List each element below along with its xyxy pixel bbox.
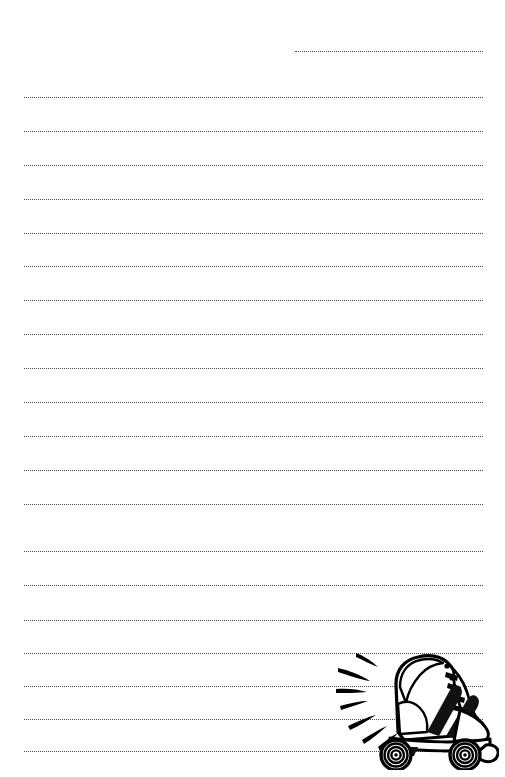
wheel-front-ring-1 xyxy=(385,744,408,767)
lace-3 xyxy=(450,694,465,703)
sole-plate xyxy=(390,738,490,751)
rule-line-partial xyxy=(295,51,483,52)
rule-line xyxy=(24,620,483,621)
rule-line xyxy=(24,719,483,720)
speed-line-4 xyxy=(340,701,368,710)
writing-paper-page xyxy=(0,0,505,777)
rule-line xyxy=(24,653,483,654)
lace-1 xyxy=(445,672,458,681)
stripe-2 xyxy=(446,695,479,739)
rule-line xyxy=(24,585,483,586)
wheel-front-tire xyxy=(381,740,411,770)
rule-line xyxy=(24,97,483,98)
speed-line-5 xyxy=(348,715,376,730)
eyelet-2 xyxy=(449,675,454,680)
wheel-front-hub xyxy=(394,753,398,757)
wheel-rear-hub xyxy=(463,753,467,757)
rule-line xyxy=(24,504,483,505)
eyelet-3 xyxy=(453,687,458,692)
wheel-rear-tire xyxy=(450,740,480,770)
boot-collar xyxy=(400,659,443,703)
skate-body-group xyxy=(381,656,498,770)
rule-line xyxy=(24,751,483,752)
rule-line xyxy=(24,266,483,267)
speed-lines-group xyxy=(336,653,398,751)
toe-stop xyxy=(479,745,498,762)
rule-line xyxy=(24,300,483,301)
wheel-rear-ring-1 xyxy=(454,744,477,767)
boot-heel-panel xyxy=(398,702,427,734)
wheel-rear-ring-2 xyxy=(457,747,473,763)
rule-line xyxy=(24,131,483,132)
rule-line xyxy=(24,233,483,234)
lace-eyelets-group xyxy=(444,663,458,692)
speed-line-6 xyxy=(362,726,387,744)
laces-group xyxy=(445,672,469,714)
stripe-1 xyxy=(427,685,462,736)
lace-4 xyxy=(453,705,469,714)
boot-tongue xyxy=(454,670,478,723)
eyelet-1 xyxy=(444,663,449,668)
wheel-front-ring-2 xyxy=(388,747,404,763)
speed-line-3 xyxy=(336,689,367,693)
wheel-front-group xyxy=(381,740,411,770)
rule-line xyxy=(24,686,483,687)
rule-line xyxy=(24,402,483,403)
toe-cap xyxy=(454,710,488,741)
boot-upper xyxy=(396,656,468,740)
rule-line xyxy=(24,334,483,335)
rule-line xyxy=(24,368,483,369)
rule-line xyxy=(24,199,483,200)
speed-line-7 xyxy=(378,733,398,751)
rule-line xyxy=(24,551,483,552)
rule-line xyxy=(24,470,483,471)
wheel-rear-group xyxy=(450,740,480,770)
rule-line xyxy=(24,436,483,437)
lace-2 xyxy=(447,683,461,692)
speed-line-2 xyxy=(338,668,370,681)
rule-line xyxy=(24,165,483,166)
speed-line-1 xyxy=(356,653,378,667)
